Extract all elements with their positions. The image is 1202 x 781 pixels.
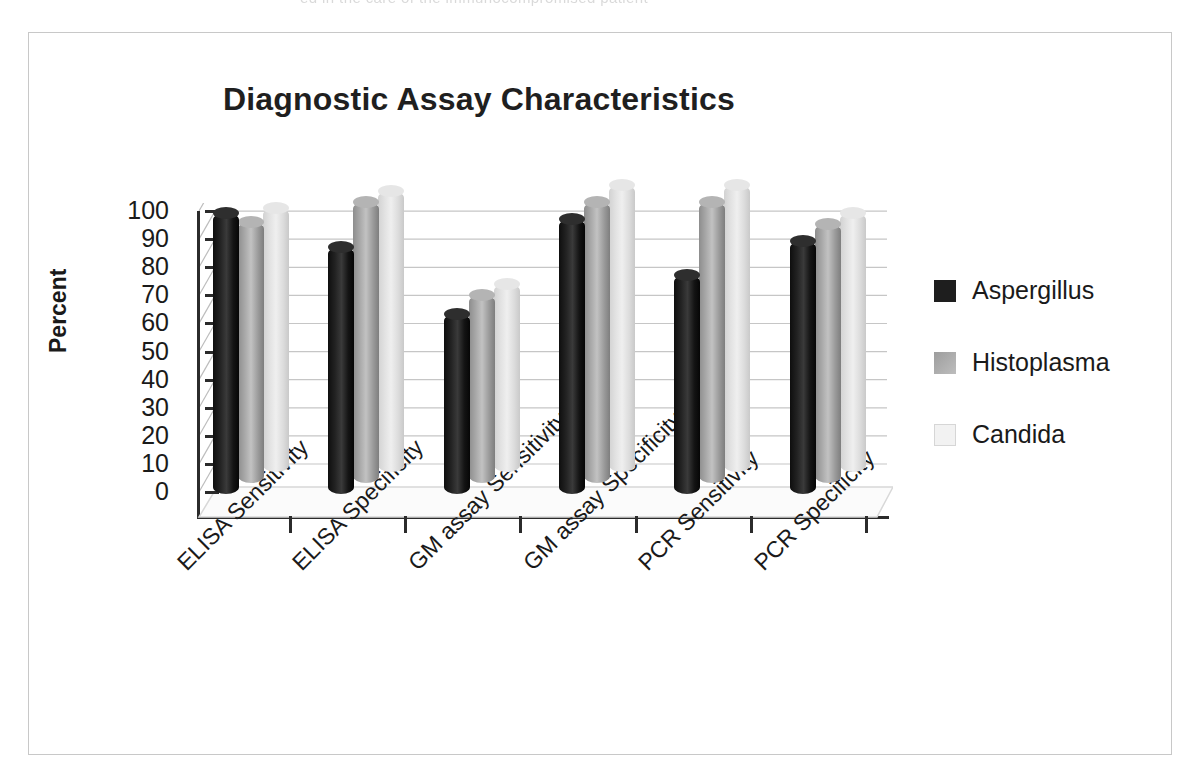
bar-histoplasma-elisa-specificity [353, 202, 379, 483]
bar-cap [378, 185, 404, 197]
x-tick [519, 516, 522, 533]
legend-swatch-icon-histoplasma [934, 352, 956, 374]
bar-cap [263, 202, 289, 214]
bar-aspergillus-gm-assay-sensitivity [444, 314, 470, 494]
bar-group [658, 213, 773, 528]
bar-group [543, 213, 658, 528]
bar-histoplasma-pcr-specificity [815, 224, 841, 483]
y-axis-tick-labels: 1009080706050403020100 [99, 203, 169, 518]
x-tick [289, 516, 292, 533]
y-tick-label-30: 30 [107, 395, 169, 420]
y-tick-label-20: 20 [107, 423, 169, 448]
bar-aspergillus-gm-assay-specificity [559, 219, 585, 494]
bar-cap [444, 308, 470, 320]
legend-swatch-icon-candida [934, 424, 956, 446]
bar-histoplasma-gm-assay-specificity [584, 202, 610, 483]
bar-histoplasma-elisa-sensitivity [238, 222, 264, 483]
legend-label: Histoplasma [972, 350, 1110, 375]
bar-candida-pcr-sensitivity [724, 185, 750, 472]
bar-cap [238, 216, 264, 228]
legend-label: Candida [972, 422, 1065, 447]
bar-cap [213, 207, 239, 219]
bar-aspergillus-pcr-specificity [790, 241, 816, 494]
legend-label: Aspergillus [972, 278, 1094, 303]
x-tick [404, 516, 407, 533]
bar-cap [790, 235, 816, 247]
figure-frame: Diagnostic Assay Characteristics Percent… [28, 32, 1172, 755]
legend-swatch-icon-aspergillus [934, 280, 956, 302]
y-tick-label-60: 60 [107, 310, 169, 335]
bar-candida-elisa-sensitivity [263, 208, 289, 472]
bar-cap [699, 196, 725, 208]
y-tick-label-70: 70 [107, 282, 169, 307]
chart-title: Diagnostic Assay Characteristics [29, 81, 929, 118]
bar-aspergillus-pcr-sensitivity [674, 275, 700, 494]
bar-aspergillus-elisa-sensitivity [213, 213, 239, 494]
legend-item-candida[interactable]: Candida [934, 422, 1184, 447]
bar-group [312, 213, 427, 528]
y-tick-label-90: 90 [107, 226, 169, 251]
scan-artifact-sliver: ed in the care of the immunocompromised … [300, 0, 900, 9]
bar-candida-pcr-specificity [840, 213, 866, 472]
bar-cap [674, 269, 700, 281]
bar-cap [584, 196, 610, 208]
bar-cap [840, 207, 866, 219]
x-axis-category-labels: ELISA SensitivityELISA SpecificityGM ass… [177, 533, 937, 703]
y-tick-label-100: 100 [107, 198, 169, 223]
bar-cap [494, 278, 520, 290]
bar-histoplasma-pcr-sensitivity [699, 202, 725, 483]
x-tick [865, 516, 868, 533]
chart-legend: AspergillusHistoplasmaCandida [934, 278, 1184, 494]
legend-item-aspergillus[interactable]: Aspergillus [934, 278, 1184, 303]
y-tick-label-0: 0 [107, 479, 169, 504]
y-tick-label-80: 80 [107, 254, 169, 279]
bar-candida-gm-assay-sensitivity [494, 284, 520, 472]
bar-group [428, 213, 543, 528]
y-tick-label-10: 10 [107, 451, 169, 476]
y-tick-label-50: 50 [107, 339, 169, 364]
bar-group [774, 213, 889, 528]
bar-histoplasma-gm-assay-sensitivity [469, 295, 495, 483]
y-tick-label-40: 40 [107, 367, 169, 392]
bar-candida-gm-assay-specificity [609, 185, 635, 472]
scan-artifact-text: ed in the care of the immunocompromised … [300, 0, 900, 6]
bar-cap [328, 241, 354, 253]
bar-cap [609, 179, 635, 191]
bar-aspergillus-elisa-specificity [328, 247, 354, 494]
bar-cap [469, 289, 495, 301]
bar-cap [353, 196, 379, 208]
y-axis-title: Percent [45, 269, 72, 353]
bar-group [197, 213, 312, 528]
x-tick [750, 516, 753, 533]
x-tick [635, 516, 638, 533]
bar-cap [724, 179, 750, 191]
bar-cap [559, 213, 585, 225]
bar-candida-elisa-specificity [378, 191, 404, 472]
bar-cap [815, 218, 841, 230]
legend-item-histoplasma[interactable]: Histoplasma [934, 350, 1184, 375]
